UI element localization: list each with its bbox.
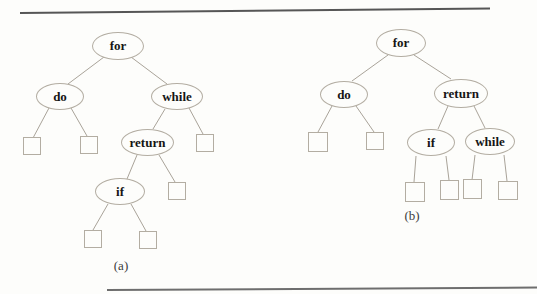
caption-a: (a) — [101, 258, 141, 274]
tree-b-leaf-1 — [308, 132, 328, 152]
edge-a-if-leaf6 — [131, 204, 146, 231]
tree-a-node-if: if — [95, 178, 145, 205]
edge-b-return-if — [438, 106, 448, 129]
edge-b-return-while — [474, 106, 485, 128]
tree-b-leaf-6 — [498, 181, 518, 200]
edge-b-do-leaf1 — [318, 106, 332, 132]
edge-a-if-leaf5 — [93, 204, 108, 230]
edge-b-while-leaf6 — [504, 155, 507, 181]
edge-a-while-return — [153, 109, 165, 129]
edge-a-do-leaf1 — [33, 108, 49, 138]
edge-b-if-leaf3 — [414, 156, 416, 182]
tree-b-leaf-4 — [440, 180, 459, 200]
bottom-rule — [107, 288, 537, 291]
edge-a-for-while — [131, 57, 167, 84]
edge-a-do-leaf2 — [71, 108, 87, 136]
tree-a-node-for: for — [92, 32, 144, 60]
edge-a-return-leaf4 — [159, 155, 175, 182]
edge-b-if-leaf4 — [446, 156, 449, 180]
tree-a-leaf-1 — [23, 137, 41, 155]
edge-b-for-do — [352, 55, 388, 81]
caption-b: (b) — [392, 208, 432, 224]
tree-b-node-for: for — [376, 29, 426, 57]
edge-a-return-if — [127, 155, 137, 179]
tree-b-edges — [318, 55, 507, 182]
tree-a-leaf-3 — [196, 134, 214, 152]
tree-a-leaf-6 — [139, 231, 157, 249]
edge-a-for-do — [68, 57, 104, 84]
tree-a-leaf-5 — [84, 230, 102, 248]
edge-b-while-leaf5 — [472, 155, 475, 180]
tree-b-leaf-5 — [463, 179, 482, 199]
tree-a-node-while: while — [151, 83, 203, 110]
edge-a-while-leaf3 — [189, 108, 203, 134]
tree-b-leaf-2 — [366, 132, 384, 150]
tree-a-leaf-2 — [80, 136, 98, 154]
figure-canvas: for do while return if (a) for do return… — [0, 0, 537, 294]
tree-b-node-do: do — [320, 81, 368, 108]
tree-a-node-return: return — [121, 129, 174, 156]
edge-b-for-return — [414, 55, 451, 79]
tree-b-leaf-3 — [405, 182, 425, 202]
tree-a-leaf-4 — [168, 182, 186, 200]
tree-a-node-do: do — [36, 83, 84, 110]
tree-b-node-while: while — [465, 128, 515, 155]
tree-b-node-if: if — [407, 129, 455, 156]
top-rule — [20, 9, 490, 14]
edge-b-do-leaf2 — [356, 106, 374, 132]
tree-b-node-return: return — [434, 79, 488, 108]
